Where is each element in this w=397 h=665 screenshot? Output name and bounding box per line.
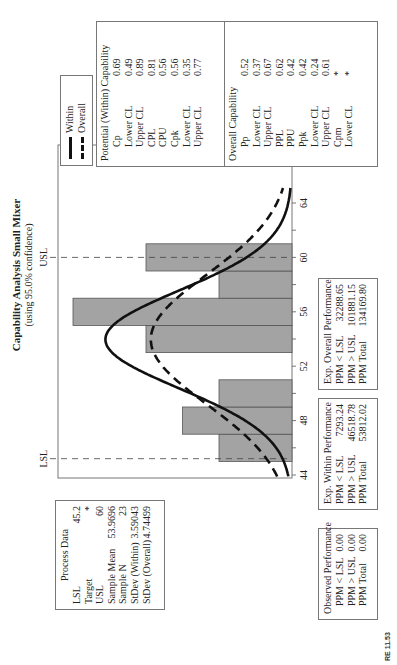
row-label: Lower CL xyxy=(123,106,135,147)
row-label: Target xyxy=(83,579,95,604)
table-row: Upper CL0.89 xyxy=(134,27,146,161)
row-label: CPU xyxy=(157,128,169,147)
section-header: Exp. Overall Performance xyxy=(322,284,334,384)
histogram-bar xyxy=(73,298,292,325)
row-label: PPM > USL xyxy=(346,556,358,606)
row-value: 23 xyxy=(117,506,129,516)
table-row: StDev (Overall)4.74499 xyxy=(141,506,153,604)
row-value: 0.35 xyxy=(181,59,193,77)
row-label: Upper CL xyxy=(262,107,274,147)
row-value: 0.61 xyxy=(320,59,332,77)
row-value: 0.00 xyxy=(346,534,358,552)
row-label: Upper CL xyxy=(192,107,204,147)
legend: Within Overall xyxy=(60,75,93,166)
table-row: Cpk0.56 xyxy=(169,27,181,161)
row-value: 0.49 xyxy=(123,59,135,77)
capability-table: Potential (Within) Capability Cp0.69Lowe… xyxy=(96,21,378,167)
section-header: Exp. Within Performance xyxy=(322,404,334,504)
row-value: 0.52 xyxy=(239,59,251,77)
row-label: StDev (Within) xyxy=(129,542,141,604)
section-header: Overall Capability xyxy=(227,27,239,161)
row-value: 0.00 xyxy=(357,534,369,552)
row-label: PPM < LSL xyxy=(334,558,346,606)
row-value: 0.56 xyxy=(169,59,181,77)
row-value: 0.00 xyxy=(334,534,346,552)
x-tick-label: 48 xyxy=(298,416,309,426)
row-label: LSL xyxy=(71,586,83,604)
row-label: Cpk xyxy=(169,130,181,147)
table-row: Upper CL0.67 xyxy=(262,27,274,161)
legend-label: Within xyxy=(64,106,75,133)
row-label: Lower CL xyxy=(343,106,355,147)
table-row: PPM > USL101881.15 xyxy=(346,284,358,384)
row-value: * xyxy=(332,71,344,76)
row-label: PPM Total xyxy=(357,341,369,384)
row-label: Lower CL xyxy=(181,106,193,147)
exp-overall-performance-table: Exp. Overall Performance PPM < LSL32288.… xyxy=(318,278,378,390)
row-value: 0.24 xyxy=(309,59,321,77)
table-row: PPM Total53812.02 xyxy=(357,404,369,504)
x-tick-label: 56 xyxy=(298,307,309,317)
row-value: * xyxy=(83,506,95,511)
table-row: PPM > USL0.00 xyxy=(346,534,358,614)
capability-report: Capability Analysis Small Mixer (using 9… xyxy=(0,0,397,665)
row-label: PPM < LSL xyxy=(334,456,346,504)
observed-performance-table: Observed Performance PPM < LSL0.00PPM > … xyxy=(318,528,378,620)
row-label: Lower CL xyxy=(251,106,263,147)
overall-capability-section: Overall Capability Pp0.52Lower CL0.37Upp… xyxy=(224,22,355,166)
row-value: 3.59043 xyxy=(129,506,141,539)
row-label: PPM Total xyxy=(357,563,369,606)
histogram-bar xyxy=(146,325,292,352)
row-value: 53812.02 xyxy=(357,404,369,442)
row-label: PPM > USL xyxy=(346,454,358,504)
table-row: PPM Total134169.80 xyxy=(357,284,369,384)
table-row: Lower CL0.37 xyxy=(251,27,263,161)
row-label: USL xyxy=(94,585,106,604)
row-label: Sample Mean xyxy=(106,549,118,604)
section-header: Potential (Within) Capability xyxy=(99,27,111,161)
section-header: Process Data xyxy=(59,506,71,604)
row-value: * xyxy=(343,71,355,76)
row-label: Upper CL xyxy=(134,107,146,147)
table-row: LSL45.2 xyxy=(71,506,83,604)
table-row: USL60 xyxy=(94,506,106,604)
row-value: 4.74499 xyxy=(141,506,153,539)
table-row: Upper CL0.77 xyxy=(192,27,204,161)
row-value: 0.77 xyxy=(192,59,204,77)
table-row: Ppk0.42 xyxy=(297,27,309,161)
histogram-bar xyxy=(219,380,292,407)
row-label: PPU xyxy=(285,129,297,147)
exp-within-performance-table: Exp. Within Performance PPM < LSL7293.24… xyxy=(318,398,378,510)
x-tick-label: 60 xyxy=(298,252,309,262)
row-label: Upper CL xyxy=(320,107,332,147)
table-row: PPM < LSL7293.24 xyxy=(334,404,346,504)
row-label: Pp xyxy=(239,136,251,147)
row-label: PPM > USL xyxy=(346,334,358,384)
row-value: 0.37 xyxy=(251,59,263,77)
x-tick-label: 64 xyxy=(298,198,309,208)
table-row: PPM Total0.00 xyxy=(357,534,369,614)
table-row: Lower CL0.24 xyxy=(309,27,321,161)
table-row: CPU0.56 xyxy=(157,27,169,161)
row-label: Lower CL xyxy=(309,106,321,147)
table-row: PPL0.62 xyxy=(274,27,286,161)
row-value: 53.9696 xyxy=(106,506,118,539)
row-value: 0.42 xyxy=(285,59,297,77)
row-value: 134169.80 xyxy=(357,284,369,327)
table-row: CPL0.81 xyxy=(146,27,158,161)
row-value: 7293.24 xyxy=(334,404,346,437)
row-value: 0.89 xyxy=(134,59,146,77)
table-row: Sample Mean53.9696 xyxy=(106,506,118,604)
table-row: Lower CL0.35 xyxy=(181,27,193,161)
usl-label: USL xyxy=(38,248,49,267)
table-row: Target* xyxy=(83,506,95,604)
row-value: 0.67 xyxy=(262,59,274,77)
row-value: 46518.78 xyxy=(346,404,358,442)
lsl-label: LSL xyxy=(38,450,49,468)
potential-capability-section: Potential (Within) Capability Cp0.69Lowe… xyxy=(99,27,224,161)
histogram-bar xyxy=(183,407,293,434)
row-value: 0.42 xyxy=(297,59,309,77)
row-value: 45.2 xyxy=(71,506,83,524)
row-label: PPM < LSL xyxy=(334,336,346,384)
histogram-bar xyxy=(219,271,292,298)
